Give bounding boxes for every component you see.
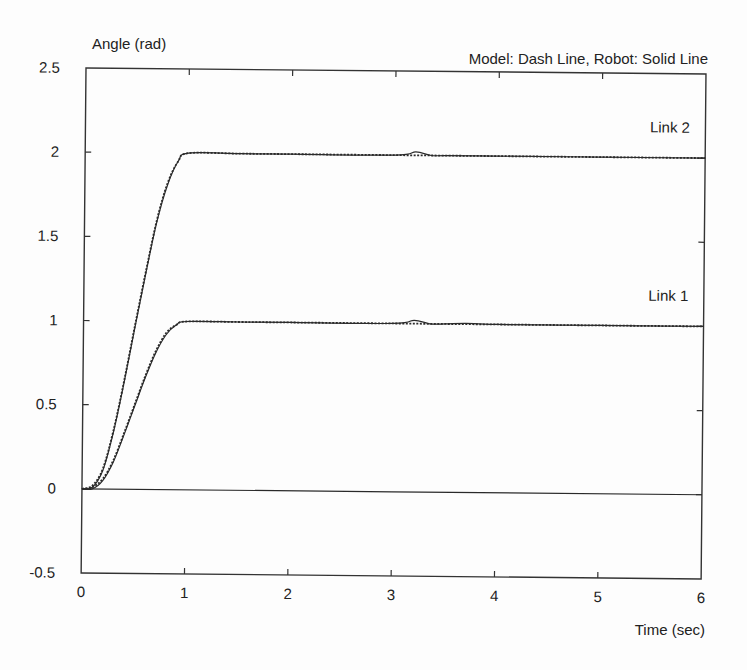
x-tick-label: 6 xyxy=(697,589,706,606)
x-tick-label: 4 xyxy=(490,587,499,604)
x-tick-label: 3 xyxy=(387,586,396,603)
series-line xyxy=(82,317,704,495)
y-tick-label: 2.5 xyxy=(39,59,60,76)
series-annotation: Link 1 xyxy=(648,287,688,304)
y-tick-label: -0.5 xyxy=(29,563,55,580)
series-lines xyxy=(82,149,705,496)
y-tick-label: 1 xyxy=(49,311,58,328)
y-tick-label: 2 xyxy=(51,143,60,160)
x-tick-label: 2 xyxy=(283,585,292,602)
x-tick-label: 5 xyxy=(593,588,602,605)
annotations: Link 2Link 1 xyxy=(648,118,690,304)
x-tick-labels: 0123456 xyxy=(77,583,705,606)
series-line xyxy=(82,149,705,495)
chart: -0.500.511.522.5 0123456 Link 2Link 1 An… xyxy=(0,0,747,670)
series-line xyxy=(82,489,702,495)
chart-subtitle: Model: Dash Line, Robot: Solid Line xyxy=(469,50,708,67)
x-axis-label: Time (sec) xyxy=(635,621,705,638)
y-tick-label: 0.5 xyxy=(36,395,57,412)
y-tick-labels: -0.500.511.522.5 xyxy=(29,59,60,581)
y-axis-label: Angle (rad) xyxy=(92,35,166,52)
y-tick-label: 1.5 xyxy=(37,227,58,244)
x-tick-label: 1 xyxy=(180,584,189,601)
y-tick-label: 0 xyxy=(48,479,57,496)
x-tick-label: 0 xyxy=(77,583,86,600)
series-annotation: Link 2 xyxy=(650,118,690,135)
series-line xyxy=(82,320,704,495)
